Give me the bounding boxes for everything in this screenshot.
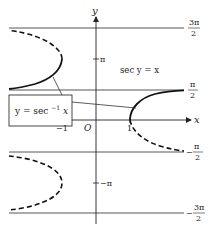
curve-dashed-upper-left (9, 31, 62, 60)
svg-text:3π: 3π (194, 203, 204, 212)
svg-text:2: 2 (190, 91, 195, 100)
curve-dashed-lower-left (9, 156, 62, 210)
origin-label: O (84, 123, 92, 133)
asymptote-label-neg-pi-over-2: − π 2 (186, 142, 203, 162)
svg-text:π: π (194, 142, 199, 151)
y-tick-label-neg-pi: −π (100, 179, 112, 188)
x-tick-label-neg-1: −1 (56, 124, 68, 133)
svg-text:3π: 3π (189, 18, 199, 27)
svg-text:2: 2 (191, 29, 196, 38)
asymptote-label-neg-3pi-over-2: − 3π 2 (186, 203, 205, 223)
svg-text:−: − (186, 209, 193, 218)
curve-principal-right (130, 90, 184, 120)
relation-label: sec y = x (120, 65, 159, 75)
sec-inverse-diagram: y x O −1 1 π −π 3π 2 π 2 − π 2 − 3π 2 se… (0, 0, 215, 227)
asymptote-label-pi-over-2: π 2 (188, 80, 198, 100)
svg-text:−: − (186, 148, 193, 157)
y-axis-label: y (91, 5, 98, 16)
svg-text:2: 2 (196, 214, 201, 223)
callout-pointer-left (53, 77, 62, 95)
x-axis-label: x (194, 114, 200, 125)
svg-text:π: π (190, 80, 195, 89)
curve-principal-left (9, 59, 62, 89)
asymptote-label-3pi-over-2: 3π 2 (188, 18, 200, 38)
x-tick-label-1: 1 (127, 124, 132, 133)
y-tick-label-pi: π (100, 55, 105, 64)
svg-text:2: 2 (195, 153, 200, 162)
curve-dashed-right-lower (130, 120, 184, 151)
callout-pointer-right (72, 102, 136, 108)
